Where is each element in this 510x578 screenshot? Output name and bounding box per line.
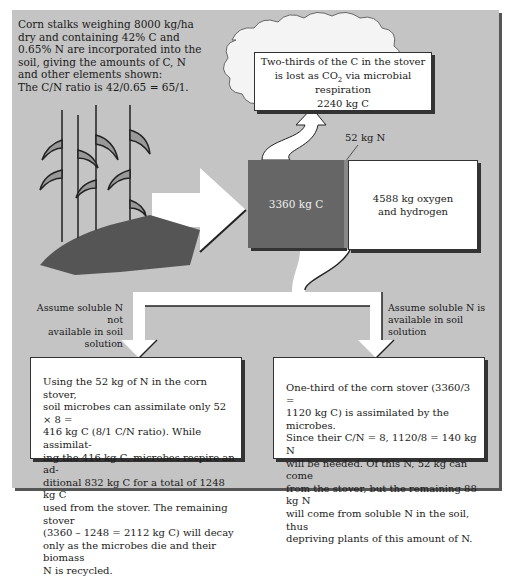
- box-line: Since their C/N = 8, 1120/8 = 140 kg N: [286, 432, 478, 457]
- right-branch-label: Assume soluble N is available in soil so…: [388, 302, 498, 338]
- intro-line: and other elements shown:: [18, 68, 218, 81]
- box-line: soil microbes can assimilate only 52 × 8…: [43, 401, 235, 426]
- respiration-value: 2240 kg C: [255, 97, 431, 111]
- oh-line: and hydrogen: [373, 205, 453, 218]
- label-line: Assume soluble N not: [28, 302, 123, 326]
- intro-text: Corn stalks weighing 8000 kg/ha dry and …: [18, 18, 218, 93]
- carbon-block: 3360 kg C: [248, 160, 344, 248]
- oh-line: 4588 kg oxygen: [373, 192, 453, 205]
- oxygen-hydrogen-block: 4588 kg oxygenand hydrogen: [348, 160, 478, 250]
- soil-icon: [40, 215, 200, 275]
- intro-line: soil, giving the amounts of C, N: [18, 56, 218, 69]
- box-line: One-third of the corn stover (3360/3 =: [286, 382, 478, 407]
- intro-line: 0.65% N are incorporated into the: [18, 43, 218, 56]
- box-line: N is recycled.: [43, 565, 235, 578]
- box-line: 1120 kg C) is assimilated by the microbe…: [286, 407, 478, 432]
- nitrogen-label: 52 kg N: [345, 132, 385, 143]
- soluble-n-box: One-third of the corn stover (3360/3 = 1…: [273, 357, 485, 459]
- respiration-box: Two-thirds of the C in the stover is los…: [254, 52, 432, 111]
- box-line: ditional 832 kg C for a total of 1248 kg…: [43, 477, 235, 502]
- box-line: depriving plants of this amount of N.: [286, 533, 478, 546]
- box-line: only as the microbes die and their bioma…: [43, 540, 235, 565]
- box-line: Using the 52 kg of N in the corn stover,: [43, 376, 235, 401]
- box-line: 416 kg C (8/1 C/N ratio). While assimila…: [43, 426, 235, 451]
- label-line: Assume soluble N is: [388, 302, 498, 314]
- box-line: from the stover, but the remaining 88 kg…: [286, 483, 478, 508]
- label-line: available in soil solution: [388, 314, 498, 338]
- label-line: available in soil solution: [28, 326, 123, 350]
- box-line: ing the 416 kg C, microbes respire an ad…: [43, 452, 235, 477]
- intro-line: Corn stalks weighing 8000 kg/ha: [18, 18, 218, 31]
- box-line: will come from soluble N in the soil, th…: [286, 508, 478, 533]
- box-line: (3360 – 1248 = 2112 kg C) will decay: [43, 527, 235, 540]
- box-line: used from the stover. The remaining stov…: [43, 502, 235, 527]
- respiration-arrow-icon: [262, 108, 326, 160]
- box-line: will be needed. Of this N, 52 kg can com…: [286, 458, 478, 483]
- no-soluble-n-box: Using the 52 kg of N in the corn stover,…: [30, 357, 242, 459]
- left-branch-label: Assume soluble N not available in soil s…: [28, 302, 123, 350]
- intro-line: The C/N ratio is 42/0.65 = 65/1.: [18, 81, 218, 94]
- carbon-label: 3360 kg C: [269, 198, 324, 210]
- respiration-line: is lost as CO2 via microbial respiration: [255, 69, 431, 97]
- intro-line: dry and containing 42% C and: [18, 31, 218, 44]
- respiration-line: Two-thirds of the C in the stover: [255, 55, 431, 69]
- text-segment: is lost as CO: [275, 70, 338, 81]
